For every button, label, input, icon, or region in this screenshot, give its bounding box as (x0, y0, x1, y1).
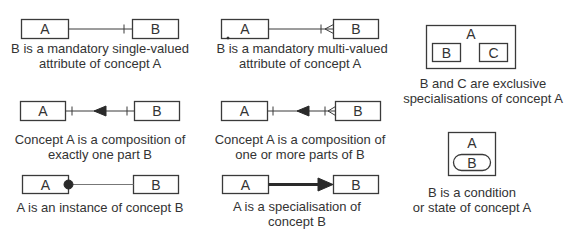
notation-diagram: A B B is a mandatory single-valued attri… (0, 0, 573, 234)
concept-label-a: A (40, 21, 50, 37)
outer-concept-label: A (467, 135, 477, 151)
caption-line-1: B is a mandatory multi-valued (216, 41, 387, 56)
caption-line-1: A is an instance of concept B (17, 200, 184, 215)
panel-condition-state: A B B is a condition or state of concept… (413, 133, 532, 216)
caption-line-1: B is a mandatory single-valued (11, 41, 189, 56)
inner-concept-label-b: B (442, 45, 451, 61)
concept-label-b: B (353, 103, 362, 119)
caption-line-2: exactly one part B (48, 147, 152, 162)
caption-line-1: Concept A is a composition of (215, 132, 386, 147)
state-pill-label: B (467, 155, 476, 171)
specialisation-arrow-icon (318, 178, 333, 191)
outer-concept-label: A (466, 26, 476, 42)
concept-label-b: B (151, 177, 160, 193)
caption-line-2: or state of concept A (413, 200, 532, 215)
caption-line-1: A is a specialisation of (233, 199, 361, 214)
concept-label-a: A (38, 103, 48, 119)
caption-line-2: attribute of concept A (39, 56, 161, 71)
concept-label-a: A (241, 177, 251, 193)
caption-line-2: specialisations of concept A (403, 91, 563, 106)
caption-line-1: B and C are exclusive (420, 76, 546, 91)
panel-mandatory-multi: A B B is a mandatory multi-valued attrib… (216, 20, 387, 72)
concept-label-a: A (41, 177, 51, 193)
caption-line-1: B is a condition (428, 185, 516, 200)
dot-artifact (227, 37, 229, 39)
instance-dot-icon (64, 180, 73, 189)
caption-line-2: concept B (268, 214, 326, 229)
concept-label-a: A (240, 103, 250, 119)
panel-mandatory-single: A B B is a mandatory single-valued attri… (11, 20, 189, 72)
caption-line-1: Concept A is a composition of (15, 132, 186, 147)
concept-label-a: A (240, 21, 250, 37)
inner-concept-label-c: C (488, 45, 498, 61)
concept-label-b: B (151, 21, 160, 37)
panel-composition-many: A B Concept A is a composition of one or… (215, 102, 386, 163)
panel-specialisation: A B A is a specialisation of concept B (223, 176, 379, 230)
caption-line-2: attribute of concept A (239, 56, 361, 71)
panel-instance: A B A is an instance of concept B (17, 176, 184, 216)
composition-arrow-icon (297, 106, 309, 116)
caption-line-2: one or more parts of B (235, 147, 364, 162)
concept-label-b: B (351, 177, 360, 193)
panel-exclusive-specialisations: A B C B and C are exclusive specialisati… (403, 26, 563, 107)
concept-label-b: B (152, 103, 161, 119)
concept-label-b: B (351, 21, 360, 37)
composition-arrow-icon (94, 106, 106, 116)
panel-composition-one: A B Concept A is a composition of exactl… (15, 102, 186, 163)
